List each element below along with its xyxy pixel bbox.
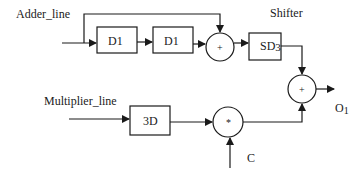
adder-2-symbol: + xyxy=(299,84,305,95)
output-main-text: O xyxy=(335,101,344,115)
constant-label: C xyxy=(247,151,255,165)
adder-1-symbol: + xyxy=(217,42,223,53)
delay-block-3d-label: 3D xyxy=(143,114,158,128)
multiplier-line-label: Multiplier_line xyxy=(44,94,117,108)
delay-block-2-label: D1 xyxy=(164,34,179,48)
multiplier-symbol: * xyxy=(226,117,231,128)
shifter-to-adder2-wire xyxy=(281,46,302,74)
shifter-sub-text: 3 xyxy=(275,41,281,53)
shifter-main-text: SD xyxy=(260,39,276,53)
block-diagram: Adder_line D1 D1 + Shifter SD3 + O1 Mult… xyxy=(0,0,361,173)
output-sub-text: 1 xyxy=(344,105,349,116)
multiplier-to-adder2-wire xyxy=(243,104,302,122)
adder-line-label: Adder_line xyxy=(16,7,70,21)
delay-block-1-label: D1 xyxy=(108,34,123,48)
output-label: O1 xyxy=(335,101,349,116)
shifter-title-label: Shifter xyxy=(270,6,303,20)
diagram-svg: Adder_line D1 D1 + Shifter SD3 + O1 Mult… xyxy=(0,0,361,173)
shifter-block-label: SD3 xyxy=(260,39,281,53)
